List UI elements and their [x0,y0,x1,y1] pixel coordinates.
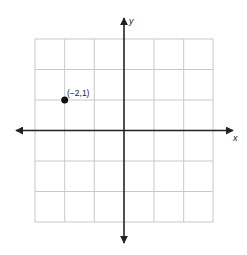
point-label: (−2,1) [67,88,90,98]
coordinate-plane: x y (−2,1) [0,0,247,255]
y-axis-label: y [128,16,134,26]
x-axis-label: x [232,133,238,143]
